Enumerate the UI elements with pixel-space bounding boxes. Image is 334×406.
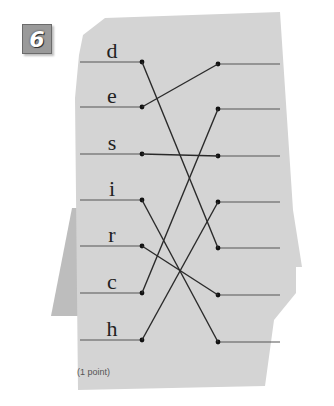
paper-fold-shadow xyxy=(51,208,79,316)
left-letter-h: h xyxy=(107,316,118,341)
left-letter-d: d xyxy=(107,38,118,63)
matching-worksheet: desirch xyxy=(0,0,334,406)
left-letter-i: i xyxy=(109,176,115,201)
left-letter-r: r xyxy=(108,222,116,247)
left-letter-e: e xyxy=(107,83,117,108)
points-label: (1 point) xyxy=(77,367,110,377)
left-letter-s: s xyxy=(108,130,117,155)
left-letter-c: c xyxy=(107,269,117,294)
